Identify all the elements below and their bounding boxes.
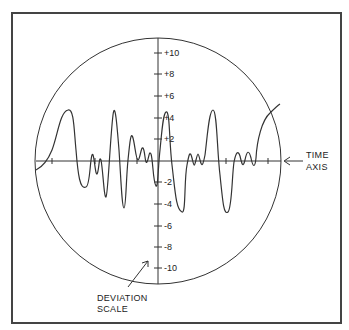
deviation-scale-label-line1: DEVIATION (97, 293, 148, 303)
time-axis-annotation: TIME AXIS (284, 150, 329, 172)
svg-text:-6: -6 (164, 221, 172, 231)
svg-text:+2: +2 (164, 134, 174, 144)
svg-text:+8: +8 (164, 69, 174, 79)
svg-text:-10: -10 (164, 263, 177, 273)
deviation-scale-annotation: DEVIATION SCALE (97, 261, 148, 314)
deviation-scale-label-line2: SCALE (97, 304, 128, 314)
svg-text:-2: -2 (164, 177, 172, 187)
svg-text:-4: -4 (164, 199, 172, 209)
time-axis-label-line1: TIME (306, 150, 329, 160)
time-axis-label-line2: AXIS (306, 162, 328, 172)
svg-text:+6: +6 (164, 91, 174, 101)
svg-text:+10: +10 (164, 48, 179, 58)
svg-text:-8: -8 (164, 242, 172, 252)
deviation-waveform-diagram: +10 +8 +6 +4 +2 -2 -4 -6 -8 -10 TIME AXI… (0, 0, 349, 330)
diagram-frame (12, 13, 341, 323)
